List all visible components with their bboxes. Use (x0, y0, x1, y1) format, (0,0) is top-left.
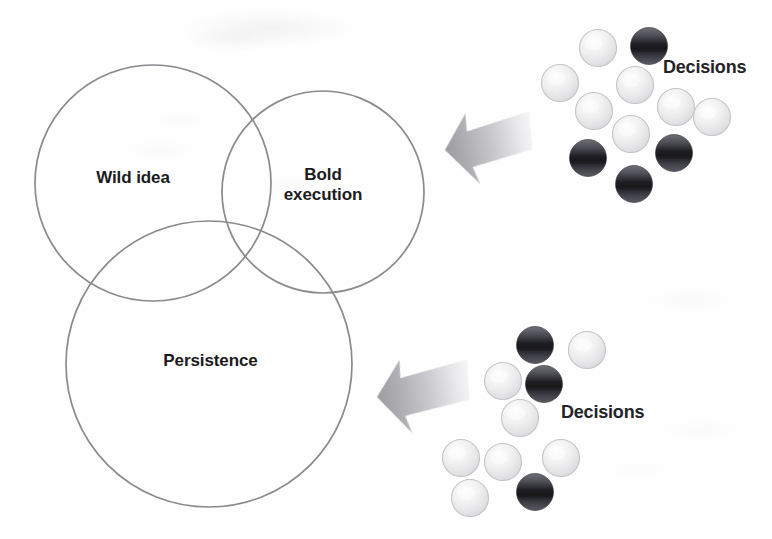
decision-sphere-body (517, 327, 554, 364)
decision-sphere-cluster-top (542, 28, 731, 203)
decision-sphere-dark (631, 28, 668, 65)
decision-sphere-highlight (618, 123, 636, 136)
decision-sphere-dark (517, 474, 554, 511)
decision-sphere-highlight (547, 72, 565, 85)
figure-canvas: Wild idea Bold execution Persistence Dec… (0, 0, 772, 539)
decision-sphere-highlight (457, 487, 475, 500)
decision-sphere-body (616, 166, 653, 203)
decision-sphere-dark (517, 327, 554, 364)
decision-sphere-highlight (548, 447, 566, 460)
venn-label-persistence: Persistence (148, 351, 273, 371)
decision-sphere-highlight (585, 37, 603, 50)
venn-label-bold-execution: Bold execution (273, 165, 373, 205)
decisions-to-bold-execution-arrow (439, 101, 541, 189)
venn-circle-group (35, 65, 424, 507)
venn-label-wild-idea: Wild idea (78, 168, 188, 188)
decision-sphere-highlight (663, 96, 681, 109)
decision-sphere-light (694, 99, 731, 136)
decision-sphere-body (656, 135, 693, 172)
arrow-bottom-shape (372, 350, 477, 438)
decision-sphere-light (576, 93, 613, 130)
decision-sphere-light (580, 30, 617, 67)
decision-sphere-body (631, 28, 668, 65)
decision-sphere-light (542, 65, 579, 102)
cluster-label-decisions-bottom: Decisions (561, 402, 644, 423)
decision-sphere-light (452, 480, 489, 517)
decision-sphere-light (502, 400, 539, 437)
decisions-to-persistence-arrow (372, 350, 477, 438)
decision-sphere-light (569, 332, 606, 369)
decision-sphere-dark (526, 366, 563, 403)
decision-sphere-light (613, 116, 650, 153)
decision-sphere-highlight (699, 106, 717, 119)
decision-sphere-light (485, 363, 522, 400)
decision-sphere-highlight (581, 100, 599, 113)
decision-sphere-highlight (490, 370, 508, 383)
decision-sphere-light (485, 444, 522, 481)
decision-sphere-dark (616, 166, 653, 203)
decision-sphere-dark (570, 140, 607, 177)
decision-sphere-light (543, 440, 580, 477)
decision-sphere-highlight (448, 447, 466, 460)
decision-sphere-highlight (490, 451, 508, 464)
decision-sphere-body (570, 140, 607, 177)
decision-sphere-highlight (574, 339, 592, 352)
arrow-top-shape (439, 101, 541, 189)
diagram-vector-layer (0, 0, 772, 539)
decision-sphere-dark (656, 135, 693, 172)
decision-sphere-body (526, 366, 563, 403)
decision-sphere-light (443, 440, 480, 477)
decision-sphere-body (517, 474, 554, 511)
decision-sphere-highlight (507, 407, 525, 420)
cluster-label-decisions-top: Decisions (663, 57, 746, 78)
decision-sphere-light (658, 89, 695, 126)
decision-sphere-highlight (622, 74, 640, 87)
decision-sphere-light (617, 67, 654, 104)
